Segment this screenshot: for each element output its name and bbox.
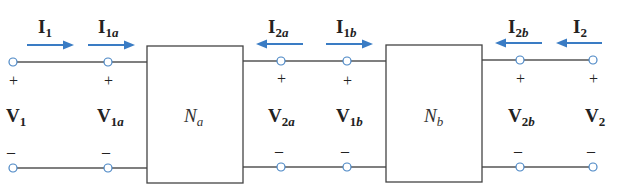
plus-sign: +: [9, 72, 18, 89]
minus-sign: –: [274, 142, 284, 159]
current-label-i1: I1: [38, 16, 52, 40]
two-port-cascade-diagram: Na Nb: [0, 0, 626, 192]
current-label-i2a: I2a: [268, 16, 289, 40]
current-arrows: [27, 39, 602, 50]
terminal-icon: [589, 163, 597, 171]
network-box-b: Nb: [386, 45, 482, 182]
arrow-right-icon: [326, 40, 373, 49]
terminal-icon: [589, 56, 597, 64]
terminal-icon: [516, 56, 524, 64]
terminal-icon: [9, 58, 17, 66]
minus-sign: –: [6, 143, 16, 160]
network-box-a: Na: [147, 46, 243, 183]
current-label-i2b: I2b: [508, 16, 529, 40]
voltage-label-v1: V1: [6, 105, 26, 129]
minus-sign: –: [586, 142, 596, 159]
minus-sign: –: [340, 142, 350, 159]
plus-signs: + + + + + +: [9, 70, 598, 89]
terminal-icon: [277, 57, 285, 65]
voltage-label-v1b: V1b: [336, 105, 363, 129]
arrow-right-icon: [27, 41, 74, 50]
terminal-icon: [277, 163, 285, 171]
voltage-label-v1a: V1a: [97, 105, 124, 129]
terminal-icon: [104, 164, 112, 172]
terminal-icon: [516, 163, 524, 171]
plus-sign: +: [589, 70, 598, 87]
terminal-icon: [104, 58, 112, 66]
current-labels: I1 I1a I2a I1b I2b I2: [38, 16, 587, 40]
voltage-label-v2b: V2b: [508, 105, 535, 129]
minus-signs: – – – – – –: [6, 142, 596, 160]
current-label-i1b: I1b: [336, 16, 357, 40]
plus-sign: +: [343, 72, 352, 89]
terminal-icon: [9, 164, 17, 172]
plus-sign: +: [277, 70, 286, 87]
voltage-label-v2a: V2a: [268, 105, 295, 129]
arrow-left-icon: [256, 40, 303, 49]
voltage-label-v2: V2: [585, 105, 605, 129]
plus-sign: +: [516, 70, 525, 87]
voltage-labels: V1 V1a V2a V1b V2b V2: [6, 105, 605, 129]
terminal-icon: [343, 57, 351, 65]
current-label-i1a: I1a: [98, 16, 119, 40]
terminal-icon: [343, 163, 351, 171]
minus-sign: –: [513, 142, 523, 159]
current-label-i2: I2: [573, 16, 587, 40]
plus-sign: +: [104, 72, 113, 89]
arrow-right-icon: [88, 41, 135, 50]
arrow-left-icon: [556, 39, 602, 48]
minus-sign: –: [101, 143, 111, 160]
